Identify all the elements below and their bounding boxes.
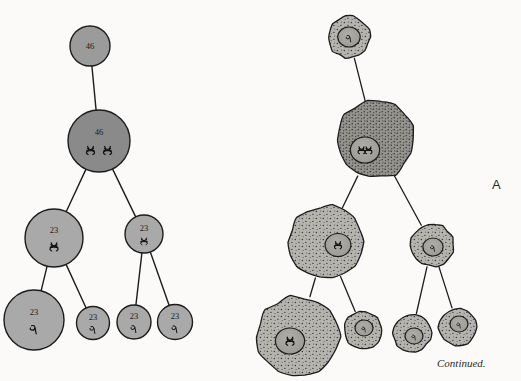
cell-nucleus xyxy=(355,320,373,336)
stippled-cell-c5 xyxy=(345,311,382,348)
cell-membrane xyxy=(338,100,414,176)
schematic-label-s1: 46 xyxy=(95,127,104,137)
schematic-label-s5: 23 xyxy=(89,312,98,322)
meiosis-figure: 4646232323232323 xyxy=(0,0,521,381)
schematic-cell-s4: 23 xyxy=(4,290,64,350)
schematic-label-s0: 46 xyxy=(86,41,95,51)
schematic-cell-s6: 23 xyxy=(117,305,151,339)
schematic-label-s3: 23 xyxy=(140,223,149,233)
schematic-cell-s1: 46 xyxy=(68,110,130,172)
schematic-cell-s2: 23 xyxy=(25,209,83,267)
cell-nucleus xyxy=(423,238,443,256)
schematic-label-s6: 23 xyxy=(130,311,139,321)
schematic-cell-s0: 46 xyxy=(70,26,110,66)
cell-nucleus xyxy=(338,27,360,47)
schematic-label-s2: 23 xyxy=(50,225,59,235)
schematic-label-s7: 23 xyxy=(171,311,180,321)
schematic-cell-s5: 23 xyxy=(77,307,110,340)
schematic-cell-s3: 23 xyxy=(125,215,163,253)
cell-nucleus xyxy=(405,328,423,344)
cell-nucleus xyxy=(450,316,468,332)
schematic-cell-s7: 23 xyxy=(158,305,193,340)
schematic-label-s4: 23 xyxy=(30,307,39,317)
panel-label-a: A xyxy=(492,177,501,192)
stippled-cell-c2 xyxy=(288,205,364,278)
continued-note: Continued. xyxy=(437,357,486,369)
stippled-cell-c1 xyxy=(338,100,414,176)
